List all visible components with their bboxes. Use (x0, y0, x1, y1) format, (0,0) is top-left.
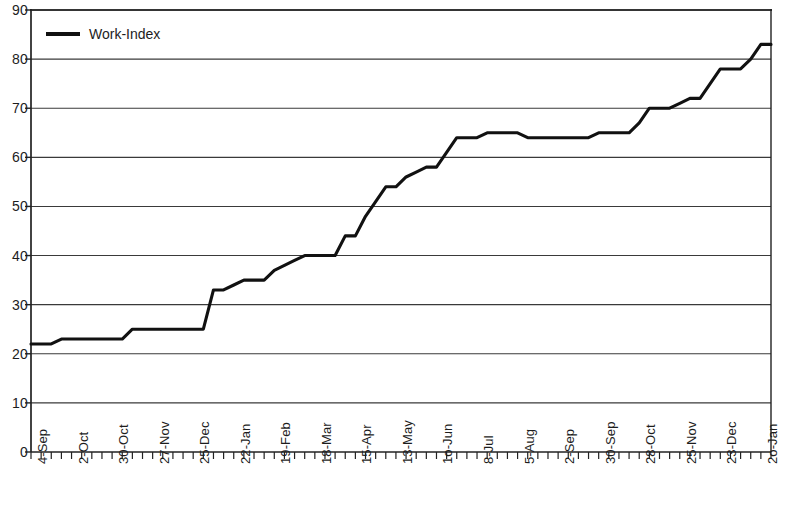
line-chart: 0102030405060708090 4-Sep2-Oct30-Oct27-N… (0, 0, 800, 515)
axes-group (31, 9, 771, 452)
x-tick-label-28-oct: 28-Oct (644, 424, 657, 464)
x-tick-label-19-feb: 19-Feb (279, 422, 292, 464)
x-tick-label-13-may: 13-May (401, 420, 414, 464)
y-tick-label-20: 20 (0, 347, 28, 361)
y-tick-label-40: 40 (0, 249, 28, 263)
x-tick-label-5-aug: 5-Aug (523, 429, 536, 464)
x-tick-label-30-oct: 30-Oct (117, 424, 130, 464)
x-tick-label-27-nov: 27-Nov (158, 421, 171, 464)
x-tick-label-30-sep: 30-Sep (604, 421, 617, 464)
y-tick-label-80: 80 (0, 52, 28, 66)
y-tick-label-0: 0 (0, 445, 28, 459)
x-tick-label-2o-jan: 2o-Jan (766, 424, 779, 464)
y-tick-label-70: 70 (0, 101, 28, 115)
x-tick-label-25-dec: 25-Dec (198, 421, 211, 464)
gridlines-group (31, 10, 771, 403)
x-tick-label-25-nov: 25-Nov (685, 421, 698, 464)
y-tick-label-10: 10 (0, 396, 28, 410)
series-line-work-index (31, 44, 771, 344)
legend-line-swatch-work-index (46, 32, 80, 36)
x-tick-label-23-dec: 23-Dec (725, 421, 738, 464)
data-series-group (31, 44, 771, 344)
x-tick-label-8-jul: 8-Jul (482, 435, 495, 464)
y-tick-label-60: 60 (0, 150, 28, 164)
x-tick-label-2-oct: 2-Oct (77, 432, 90, 464)
legend: Work-Index (46, 27, 160, 41)
y-tick-marks-group (25, 10, 31, 452)
x-tick-label-1o-jun: 1o-Jun (441, 424, 454, 464)
x-tick-label-2-sep: 2-Sep (563, 429, 576, 464)
y-tick-label-90: 90 (0, 3, 28, 17)
x-tick-label-4-sep: 4-Sep (36, 429, 49, 464)
y-tick-label-30: 30 (0, 298, 28, 312)
x-tick-label-18-mar: 18-Mar (320, 422, 333, 464)
y-tick-label-50: 50 (0, 199, 28, 213)
legend-label-work-index: Work-Index (89, 27, 160, 41)
x-tick-label-22-jan: 22-Jan (239, 424, 252, 464)
x-tick-label-15-apr: 15-Apr (360, 424, 373, 464)
